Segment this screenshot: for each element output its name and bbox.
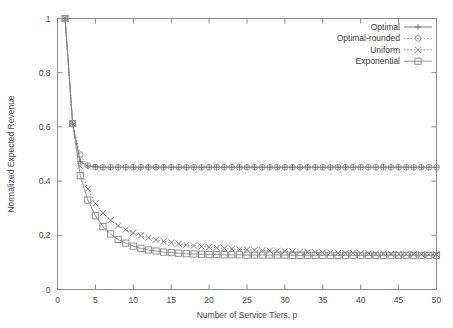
legend-label-optimal-rounded: Optimal-rounded <box>337 33 401 43</box>
y-tick-label: 1 <box>46 14 51 24</box>
x-tick-label: 50 <box>432 295 442 305</box>
x-tick-label: 15 <box>166 295 176 305</box>
x-tick-label: 0 <box>55 295 60 305</box>
x-tick-label: 30 <box>280 295 290 305</box>
x-tick-label: 35 <box>318 295 328 305</box>
revenue-line-chart: 0510152025303540455000.20.40.60.81 Numbe… <box>0 0 453 328</box>
legend-label-optimal: Optimal <box>371 22 400 32</box>
chart-container: 0510152025303540455000.20.40.60.81 Numbe… <box>0 0 453 328</box>
x-tick-label: 5 <box>93 295 98 305</box>
y-tick-label: 0.4 <box>39 176 51 186</box>
legend-label-uniform: Uniform <box>370 45 400 55</box>
y-axis-title: Normalized Expected Revenue <box>6 95 16 212</box>
x-axis-title: Number of Service Tiers, p <box>197 310 298 320</box>
x-tick-label: 20 <box>204 295 214 305</box>
y-tick-label: 0.8 <box>39 68 51 78</box>
x-tick-label: 40 <box>356 295 366 305</box>
x-tick-label: 25 <box>242 295 252 305</box>
x-tick-label: 45 <box>394 295 404 305</box>
legend-label-exponential: Exponential <box>356 56 401 66</box>
x-tick-label: 10 <box>129 295 139 305</box>
y-tick-label: 0 <box>46 285 51 295</box>
y-tick-label: 0.6 <box>39 122 51 132</box>
y-tick-label: 0.2 <box>39 230 51 240</box>
